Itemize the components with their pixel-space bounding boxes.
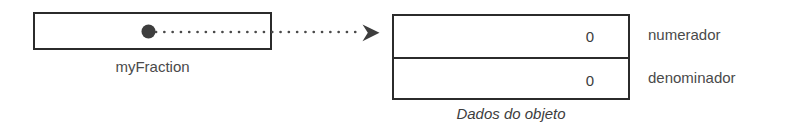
object-data-caption: Dados do objeto xyxy=(392,104,630,124)
object-field-name-numerador: numerador xyxy=(648,26,721,44)
object-field-name-denominador: denominador xyxy=(648,69,736,87)
reference-variable-box xyxy=(33,12,272,50)
object-field-value: 0 xyxy=(586,28,594,45)
object-data-box: 0 0 xyxy=(392,14,630,100)
object-field-value: 0 xyxy=(586,72,594,89)
object-field-row: 0 xyxy=(394,16,628,59)
object-reference-diagram: myFraction 0 0 numerador denominador Dad… xyxy=(0,0,799,133)
object-field-row: 0 xyxy=(394,59,628,102)
arrowhead-icon xyxy=(363,25,380,42)
reference-variable-label: myFraction xyxy=(33,57,272,77)
